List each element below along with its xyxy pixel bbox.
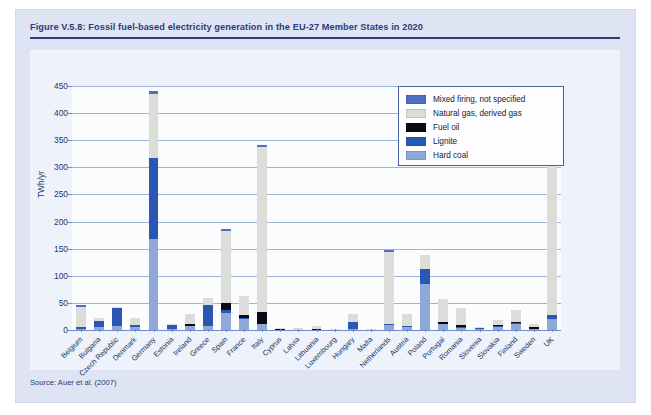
y-tick-label-150: 150 [38, 244, 68, 254]
bar-segment-natural-gas-derived-gas [130, 318, 140, 325]
bar-segment-natural-gas-derived-gas [203, 298, 213, 305]
legend-item-label: Lignite [433, 137, 457, 146]
legend-item-label: Mixed firing, not specified [433, 95, 525, 104]
x-tick-mark [135, 329, 136, 332]
bar-segment-fuel-oil [456, 325, 466, 327]
bar-ireland [185, 314, 195, 330]
x-axis-label-france: France [225, 335, 248, 358]
x-tick-mark [335, 329, 336, 332]
bar-segment-fuel-oil [239, 315, 249, 318]
y-tick-label-0: 0 [38, 325, 68, 335]
x-tick-mark [208, 329, 209, 332]
y-tick-label-300: 300 [38, 162, 68, 172]
x-axis-label-uk: UK [542, 335, 556, 349]
bar-segment-natural-gas-derived-gas [167, 324, 177, 325]
bar-segment-natural-gas-derived-gas [438, 299, 448, 322]
y-tick-label-100: 100 [38, 271, 68, 281]
y-tick-label-50: 50 [38, 298, 68, 308]
bar-segment-lignite [402, 326, 412, 327]
bar-czech-republic [112, 307, 122, 330]
x-tick-mark [317, 329, 318, 332]
bar-segment-fuel-oil [221, 303, 231, 310]
bar-segment-natural-gas-derived-gas [149, 94, 159, 158]
gridline-50 [72, 303, 561, 304]
x-tick-mark [425, 329, 426, 332]
bar-segment-lignite [493, 326, 503, 328]
bar-segment-hard-coal [149, 239, 159, 330]
y-tick-label-200: 200 [38, 217, 68, 227]
x-tick-mark [371, 329, 372, 332]
x-tick-mark [389, 329, 390, 332]
bar-segment-natural-gas-derived-gas [112, 307, 122, 308]
bar-segment-lignite [221, 310, 231, 313]
x-tick-mark [552, 329, 553, 332]
legend-item-natural-gas-derived-gas[interactable]: Natural gas, derived gas [406, 106, 556, 120]
bar-belgium [76, 305, 86, 330]
bar-romania [456, 308, 466, 330]
bar-segment-mixed-firing-not-specified [149, 91, 159, 94]
gridline-250 [72, 194, 561, 195]
legend-swatch-icon [406, 95, 426, 104]
bar-segment-lignite [348, 322, 358, 329]
y-tick-label-450: 450 [38, 81, 68, 91]
bar-poland [420, 255, 430, 330]
legend-item-mixed-firing-not-specified[interactable]: Mixed firing, not specified [406, 92, 556, 106]
bar-segment-natural-gas-derived-gas [384, 252, 394, 324]
chart-card: TWh/yr 050100150200250300350400450 Belgi… [30, 50, 620, 370]
bar-segment-lignite [94, 321, 104, 328]
bar-segment-fuel-oil [185, 324, 195, 326]
bar-segment-natural-gas-derived-gas [76, 307, 86, 327]
y-tick-label-400: 400 [38, 108, 68, 118]
bar-segment-natural-gas-derived-gas [239, 296, 249, 316]
bar-segment-natural-gas-derived-gas [257, 147, 267, 312]
x-tick-mark [226, 329, 227, 332]
x-tick-mark [461, 329, 462, 332]
legend-swatch-icon [406, 123, 426, 132]
x-tick-mark [99, 329, 100, 332]
legend-item-lignite[interactable]: Lignite [406, 134, 556, 148]
page-title: Figure V.5.8: Fossil fuel-based electric… [30, 22, 620, 32]
bar-hungary [348, 314, 358, 330]
x-tick-mark [480, 329, 481, 332]
bar-finland [511, 310, 521, 330]
bar-segment-lignite [130, 325, 140, 327]
legend-swatch-icon [406, 151, 426, 160]
x-tick-mark [407, 329, 408, 332]
gridline-100 [72, 276, 561, 277]
bar-segment-hard-coal [420, 284, 430, 330]
bar-italy [257, 145, 267, 330]
bar-france [239, 296, 249, 330]
bar-segment-lignite [149, 158, 159, 239]
bar-segment-natural-gas-derived-gas [402, 314, 412, 325]
bar-segment-natural-gas-derived-gas [185, 314, 195, 324]
figure-panel: Figure V.5.8: Fossil fuel-based electric… [16, 10, 635, 402]
bar-segment-lignite [203, 305, 213, 326]
bar-segment-lignite [420, 269, 430, 284]
x-tick-mark [298, 329, 299, 332]
bar-segment-natural-gas-derived-gas [94, 318, 104, 321]
x-tick-mark [190, 329, 191, 332]
x-tick-mark [117, 329, 118, 332]
bar-segment-fuel-oil [438, 322, 448, 324]
legend-item-hard-coal[interactable]: Hard coal [406, 148, 556, 162]
x-axis-label-cyprus: Cyprus [261, 335, 284, 358]
bar-segment-hard-coal [221, 313, 231, 330]
y-tick-label-350: 350 [38, 135, 68, 145]
title-divider [30, 37, 620, 39]
x-tick-mark [81, 329, 82, 332]
bar-segment-mixed-firing-not-specified [221, 229, 231, 231]
bar-austria [402, 314, 412, 330]
bar-segment-lignite [547, 315, 557, 319]
bar-segment-natural-gas-derived-gas [511, 310, 521, 322]
bar-segment-natural-gas-derived-gas [456, 308, 466, 325]
chart-plot-wrapper: TWh/yr 050100150200250300350400450 Belgi… [30, 50, 620, 370]
source-note: Source: Auer et al. (2007) [30, 378, 117, 387]
bar-spain [221, 229, 231, 330]
x-tick-mark [280, 329, 281, 332]
legend-item-fuel-oil[interactable]: Fuel oil [406, 120, 556, 134]
x-tick-mark [262, 329, 263, 332]
x-axis-label-austria: Austria [388, 335, 411, 358]
bar-segment-natural-gas-derived-gas [420, 255, 430, 269]
legend-item-label: Natural gas, derived gas [433, 109, 522, 118]
x-tick-mark [498, 329, 499, 332]
